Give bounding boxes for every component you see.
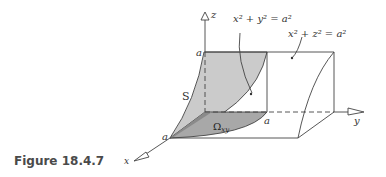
y-axis-arrow-icon bbox=[348, 108, 364, 115]
x-axis-label: x bbox=[124, 156, 129, 166]
leader-line-xz bbox=[292, 37, 302, 58]
surface-s-label: S bbox=[182, 90, 190, 103]
leader-tip-xy bbox=[250, 93, 252, 95]
a-label-y: a bbox=[264, 115, 270, 126]
figure-caption: Figure 18.4.7 bbox=[14, 154, 104, 168]
x-axis-arrow-icon bbox=[134, 152, 149, 161]
equation-xy-cylinder: x² + y² = a² bbox=[233, 13, 292, 24]
y-axis-label: y bbox=[353, 115, 360, 126]
a-label-top: a bbox=[196, 47, 202, 58]
figure-diagram: z y x a a a S Ωxy x² + y² = a² x² + z² =… bbox=[0, 0, 386, 177]
z-axis-arrow-icon bbox=[201, 12, 209, 20]
equation-xz-cylinder: x² + z² = a² bbox=[288, 28, 346, 39]
a-label-x: a bbox=[162, 131, 168, 142]
z-axis-label: z bbox=[210, 9, 217, 20]
leader-tip-xz bbox=[291, 57, 293, 59]
